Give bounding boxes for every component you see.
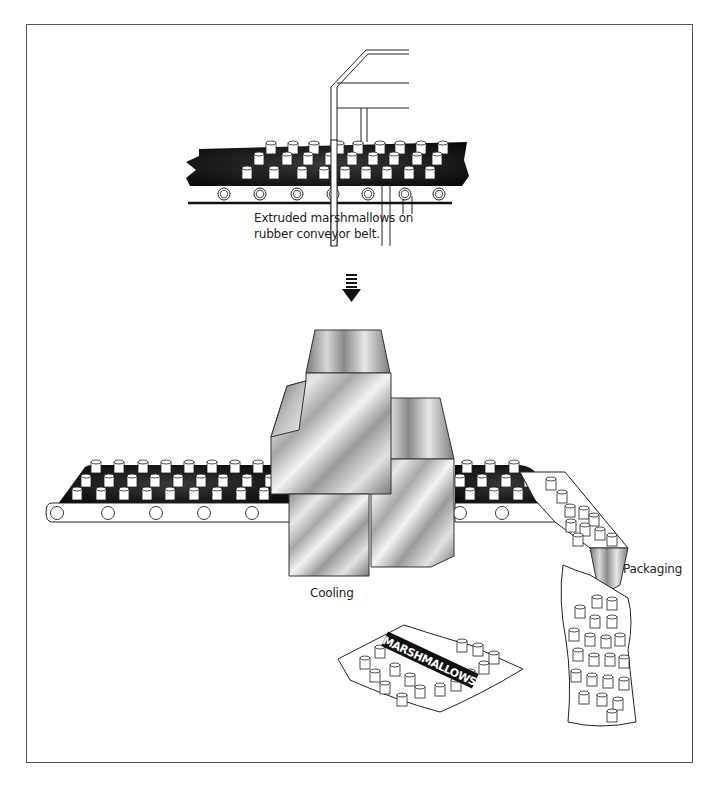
down-arrow-icon: [342, 274, 361, 302]
extrusion-label: Extruded marshmallows on rubber conveyor…: [254, 210, 413, 242]
packaging-label: Packaging: [623, 561, 682, 577]
cooling-machine: [271, 330, 454, 576]
finished-marshmallow-bag: MARSHMALLOWS: [338, 625, 523, 712]
process-diagram: MARSHMALLOWS: [0, 0, 719, 793]
cooling-label: Cooling: [310, 585, 354, 601]
extrusion-label-line2: rubber conveyor belt.: [254, 226, 413, 242]
vertical-packaging-bag: [561, 565, 636, 726]
extrusion-label-line1: Extruded marshmallows on: [254, 210, 413, 226]
